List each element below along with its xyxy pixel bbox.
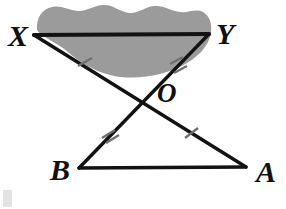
segment-ba (79, 167, 246, 168)
geometry-figure: X Y O B A (0, 0, 286, 209)
vertex-label-x: X (7, 19, 29, 52)
page-corner-mark (3, 190, 12, 207)
segment-xy (34, 34, 209, 35)
vertex-label-b: B (49, 153, 70, 186)
figure-canvas: X Y O B A (0, 0, 286, 209)
vertex-label-a: A (254, 155, 276, 188)
vertex-label-o: O (157, 78, 177, 108)
vertex-label-y: Y (216, 17, 237, 50)
